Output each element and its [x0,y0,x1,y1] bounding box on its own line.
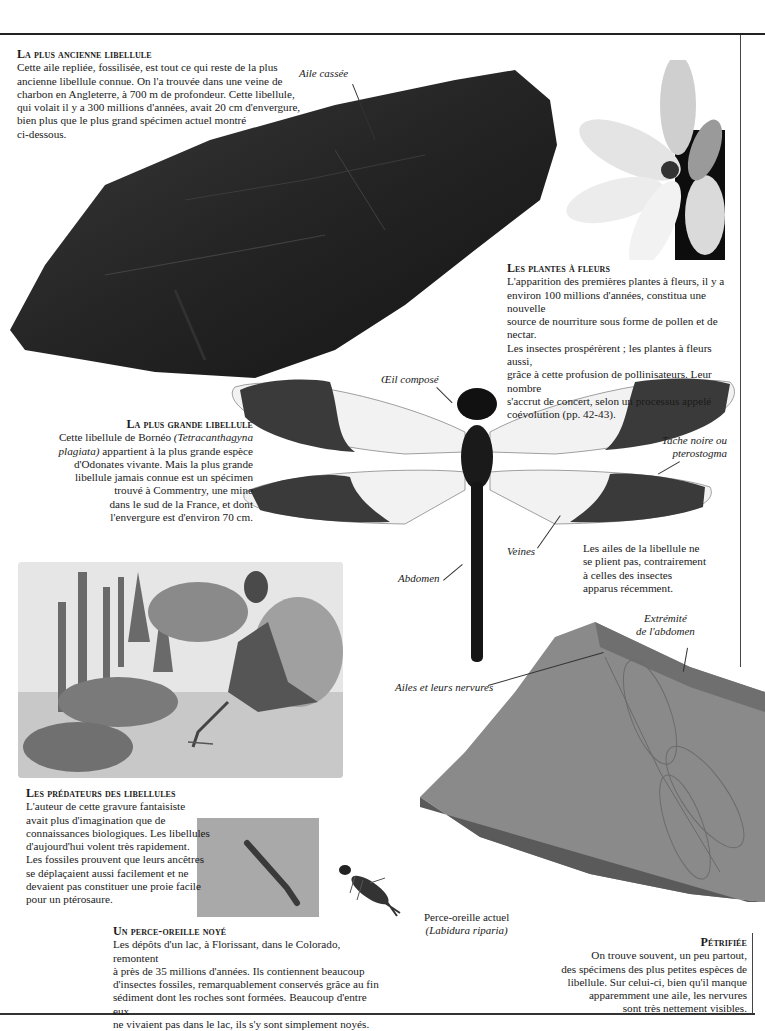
line: bien plus que le plus grand spécimen act… [17,114,317,127]
line: Les insectes prospérèrent ; les plantes … [507,342,737,369]
section-oldest: La plus ancienne libellule Cette aile re… [17,48,317,141]
line: Cette aile repliée, fossilisée, est tout… [17,61,317,74]
label-pterostigma: Tache noire ou pterostogma [640,434,727,460]
text: Cette libellule de Bornéo [59,431,174,443]
column-rule-bottom [752,933,753,1015]
label-wings-veins: Ailes et leurs nervures [395,681,493,694]
line: sont très nettement visibles. [540,1002,747,1015]
section-largest: La plus grande libellule Cette libellule… [30,418,253,524]
line: Les fossiles prouvent que leurs ancêtres [26,853,216,866]
line: coévolution (pp. 42-43). [507,408,737,421]
line: devaient pas constituer une proie facile [26,880,216,893]
heading-petrified: Pétrifiée [540,936,747,949]
line: l'envergure est d'environ 70 cm. [30,511,253,524]
magnolia-flower-image [560,60,730,260]
line: connaissances biologiques. Les libellule… [26,827,216,840]
line: dans le sud de la France, et dont [30,498,253,511]
section-predators: Les prédateurs des libellules L'auteur d… [26,787,216,907]
label-veins: Veines [507,545,535,558]
caption-line1: Perce-oreille actuel [424,911,509,924]
top-rule [0,33,765,35]
label-abdomen-tip-line2: de l'abdomen [636,625,695,638]
heading-earwig: Un perce-oreille noyé [113,925,383,938]
line: pour un ptérosaure. [26,893,216,906]
line: d'Odonates vivante. Mais la plus grande [30,458,253,471]
line: apparemment une aile, les nervures [540,989,747,1002]
line: se déplaçaient aussi facilement et ne [26,867,216,880]
line: trouvé à Commentry, une mine [30,484,253,497]
line: s'accrut de concert, selon un processus … [507,395,737,408]
line: qui volait il y a 300 millions d'années,… [17,101,317,114]
section-wings-note: Les ailes de la libellule ne se plient p… [583,542,733,595]
line: à celles des insectes [583,569,733,582]
line: ci-dessous. [17,128,317,141]
heading-oldest: La plus ancienne libellule [17,48,317,61]
label-abdomen: Abdomen [398,572,440,585]
line: ne vivaient pas dans le lac, ils s'y son… [113,1018,383,1031]
line: grâce à cette profusion de pollinisateur… [507,368,737,395]
line: libellule jamais connue est un spécimen [30,471,253,484]
line: des spécimens des plus petites espèces d… [540,963,747,976]
section-earwig: Un perce-oreille noyé Les dépôts d'un la… [113,925,383,1031]
line: ancienne libellule connue. On l'a trouvé… [17,75,317,88]
line: d'insectes fossiles, remarquablement con… [113,978,383,991]
label-abdomen-tip-line1: Extrémité [636,612,695,625]
section-petrified: Pétrifiée On trouve souvent, un peu part… [540,936,747,1016]
earwig-image [335,858,410,918]
line: charbon en Angleterre, à 700 m de profon… [17,88,317,101]
heading-flowers: Les plantes à fleurs [507,262,737,275]
line: libellule. Sur celui-ci, bien qu'il manq… [540,976,747,989]
line: L'auteur de cette gravure fantaisiste [26,800,216,813]
line: Les dépôts d'un lac, à Florissant, dans … [113,938,383,965]
line: apparus récemment. [583,582,733,595]
section-flowers: Les plantes à fleurs L'apparition des pr… [507,262,737,422]
heading-predators: Les prédateurs des libellules [26,787,216,800]
line: On trouve souvent, un peu partout, [540,949,747,962]
caption-line2: (Labidura riparia) [424,924,509,937]
line: se plient pas, contrairement [583,555,733,568]
line: environ 100 millions d'années, constitua… [507,289,737,316]
earwig-caption: Perce-oreille actuel (Labidura riparia) [424,911,509,937]
line: Les ailes de la libellule ne [583,542,733,555]
line: L'apparition des premières plantes à fle… [507,275,737,288]
line: à près de 35 millions d'années. Ils cont… [113,965,383,978]
label-pterostigma-line1: Tache noire ou [640,434,727,447]
species-name: (Tetracanthagyna [174,431,253,443]
heading-largest: La plus grande libellule [30,418,253,431]
line: sédiment dont les roches sont formées. B… [113,991,383,1018]
label-compound-eye: Œil composé [381,373,439,386]
line: avait plus d'imagination que de [26,814,216,827]
label-abdomen-tip: Extrémité de l'abdomen [636,612,695,638]
label-broken-wing: Aile cassée [299,67,348,80]
species-name: plagiata) [59,445,100,457]
label-pterostigma-line2: pterostogma [640,447,727,460]
text: appartient à la plus grande espèce [100,445,253,457]
pterosaur-engraving-image [18,562,343,778]
line: source de nourriture sous forme de polle… [507,315,737,342]
line: d'aujourd'hui volent très rapidement. [26,840,216,853]
